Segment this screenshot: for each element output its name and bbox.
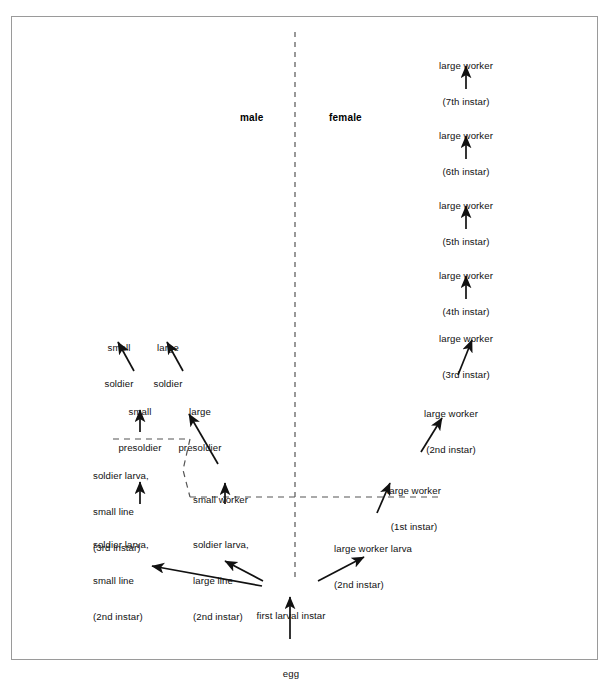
- node-line-1: large worker: [401, 408, 501, 420]
- node-line-1: large worker larva: [334, 543, 464, 555]
- node-line-2: (3rd instar): [416, 369, 516, 381]
- node-line-1: soldier larva,: [93, 539, 193, 551]
- node-line-1: soldier larva,: [193, 539, 293, 551]
- node-line-1: large worker: [416, 333, 516, 345]
- node-line-1: small worker: [193, 494, 275, 506]
- node-line-2: (2nd instar): [334, 579, 464, 591]
- node-line-1: large worker: [416, 130, 516, 142]
- node-line-1: large worker: [416, 270, 516, 282]
- node-line-1: first larval instar: [240, 610, 342, 622]
- node-line-1: soldier larva,: [93, 470, 193, 482]
- label-male: male: [240, 112, 264, 123]
- node-line-1: large worker: [416, 60, 516, 72]
- node-line-1: large worker: [416, 200, 516, 212]
- node-egg: egg: [265, 644, 317, 683]
- node-line-2: small line: [93, 575, 193, 587]
- node-line-1: small: [93, 342, 145, 354]
- node-line-1: large: [163, 406, 237, 418]
- node-first-larval-instar: first larval instar: [240, 586, 342, 646]
- node-line-1: large worker: [364, 485, 464, 497]
- node-line-3: (2nd instar): [93, 611, 193, 623]
- node-line-1: large: [142, 342, 194, 354]
- label-female: female: [329, 112, 362, 123]
- node-soldier-larva-small-line-2nd-instar: soldier larva, small line (2nd instar): [93, 515, 193, 647]
- node-line-2: (2nd instar): [401, 444, 501, 456]
- node-large-worker-larva-2nd-instar: large worker larva (2nd instar): [334, 519, 464, 615]
- node-line-1: egg: [265, 668, 317, 680]
